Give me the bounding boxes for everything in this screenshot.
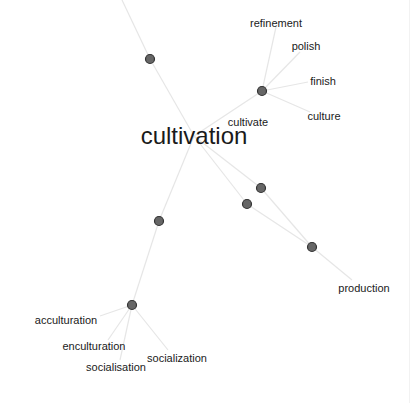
edges-layer (100, 0, 352, 360)
nodes-layer (128, 55, 317, 310)
graph-node-left[interactable] (155, 217, 164, 226)
word-label-acculturation[interactable]: acculturation (35, 314, 97, 326)
graph-node-mid2[interactable] (243, 200, 252, 209)
word-label-refinement[interactable]: refinement (250, 17, 302, 29)
graph-edge (122, 0, 150, 59)
graph-edge (132, 221, 159, 305)
graph-edge (262, 27, 276, 91)
word-label-finish[interactable]: finish (310, 75, 336, 87)
word-label-production[interactable]: production (338, 282, 389, 294)
word-label-enculturation[interactable]: enculturation (63, 340, 126, 352)
word-label-culture[interactable]: culture (307, 110, 340, 122)
graph-node-cultivate[interactable] (258, 87, 267, 96)
word-label-socialization[interactable]: socialization (147, 352, 207, 364)
graph-edge (247, 204, 312, 247)
graph-edge (262, 91, 310, 112)
word-label-cultivate[interactable]: cultivate (228, 116, 268, 128)
graph-edge (312, 247, 352, 280)
graph-node-mid1[interactable] (257, 184, 266, 193)
graph-edge (132, 305, 168, 350)
right-border-divider (409, 0, 410, 403)
graph-edge (261, 188, 312, 247)
word-label-polish[interactable]: polish (292, 40, 321, 52)
graph-node-top[interactable] (146, 55, 155, 64)
graph-node-production[interactable] (308, 243, 317, 252)
word-label-socialisation[interactable]: socialisation (86, 361, 146, 373)
labels-layer: cultivationcultivaterefinementpolishfini… (35, 17, 390, 373)
word-network-graph: cultivationcultivaterefinementpolishfini… (0, 0, 412, 403)
graph-node-social[interactable] (128, 301, 137, 310)
